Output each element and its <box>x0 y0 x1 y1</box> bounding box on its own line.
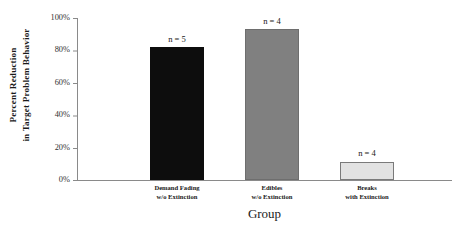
y-tick-label-0: 0% <box>38 176 70 184</box>
y-axis-tick-labels: 100% 80% 60% 40% 20% 0% <box>38 0 70 232</box>
y-axis-title-line-1: Percent Reduction <box>7 5 20 165</box>
bar-chart-figure: Percent Reduction in Target Problem Beha… <box>0 0 472 232</box>
plot-area: n = 5 n = 4 n = 4 <box>77 18 452 180</box>
x-axis-line <box>77 180 452 181</box>
y-tick-label-80: 80% <box>38 46 70 54</box>
x-tick-breaks-line-2: with Extinction <box>321 192 413 201</box>
x-tick-label-edibles: Edibles w/o Extinction <box>226 183 318 202</box>
bar-edibles[interactable] <box>245 29 299 180</box>
x-tick-edibles-line-1: Edibles <box>226 183 318 192</box>
y-tick-label-40: 40% <box>38 111 70 119</box>
x-tick-edibles-line-2: w/o Extinction <box>226 192 318 201</box>
bar-label-edibles: n = 4 <box>245 17 299 26</box>
x-tick-label-demand-fading: Demand Fading w/o Extinction <box>131 183 223 202</box>
y-tick-label-20: 20% <box>38 144 70 152</box>
y-tick-label-60: 60% <box>38 79 70 87</box>
x-tick-label-breaks: Breaks with Extinction <box>321 183 413 202</box>
x-tick-demand-fading-line-1: Demand Fading <box>131 183 223 192</box>
bar-demand-fading[interactable] <box>150 47 204 180</box>
bar-breaks[interactable] <box>340 162 394 180</box>
y-tick-label-100: 100% <box>38 14 70 22</box>
x-axis-title: Group <box>77 206 452 221</box>
bar-label-breaks: n = 4 <box>340 149 394 158</box>
y-axis-title: Percent Reduction in Target Problem Beha… <box>7 5 41 165</box>
y-axis-title-line-2: in Target Problem Behavior <box>20 5 33 165</box>
bar-label-demand-fading: n = 5 <box>150 35 204 44</box>
x-tick-breaks-line-1: Breaks <box>321 183 413 192</box>
x-tick-demand-fading-line-2: w/o Extinction <box>131 192 223 201</box>
